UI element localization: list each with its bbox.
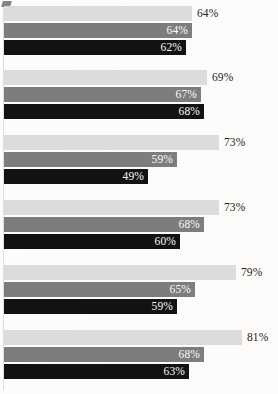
bar-value-label: 59% bbox=[143, 154, 173, 166]
bar-value-label: 59% bbox=[143, 301, 173, 313]
bar-row: 64% bbox=[4, 6, 274, 21]
bar-row: 59% bbox=[4, 299, 274, 314]
bar-row: 68% bbox=[4, 104, 274, 119]
bar-value-label: 79% bbox=[241, 267, 262, 279]
bar-value-label: 69% bbox=[212, 72, 233, 84]
bar-value-label: 60% bbox=[146, 236, 176, 248]
bar-value-label: 63% bbox=[155, 366, 185, 378]
bar-row: 81% bbox=[4, 330, 274, 345]
bar-value-label: 68% bbox=[170, 219, 200, 231]
bar-group: 73%59%49% bbox=[4, 135, 274, 184]
bar-value-label: 81% bbox=[247, 332, 268, 344]
bar-row: 49% bbox=[4, 169, 274, 184]
bar-value-label: 67% bbox=[167, 89, 197, 101]
bar-row: 68% bbox=[4, 217, 274, 232]
bar-group: 73%68%60% bbox=[4, 200, 274, 249]
bar-light[interactable] bbox=[4, 70, 207, 85]
bar-row: 67% bbox=[4, 87, 274, 102]
bar-row: 73% bbox=[4, 135, 274, 150]
bar-group: 64%64%62% bbox=[4, 6, 274, 55]
bar-row: 65% bbox=[4, 282, 274, 297]
bar-row: 59% bbox=[4, 152, 274, 167]
bar-value-label: 49% bbox=[114, 171, 144, 183]
bar-value-label: 62% bbox=[152, 42, 182, 54]
bar-light[interactable] bbox=[4, 200, 219, 215]
bar-light[interactable] bbox=[4, 135, 219, 150]
bar-row: 69% bbox=[4, 70, 274, 85]
bar-value-label: 68% bbox=[170, 106, 200, 118]
bar-value-label: 64% bbox=[197, 8, 218, 20]
bar-row: 79% bbox=[4, 265, 274, 280]
bar-group: 81%68%63% bbox=[4, 330, 274, 379]
bar-row: 62% bbox=[4, 40, 274, 55]
bar-light[interactable] bbox=[4, 6, 192, 21]
bar-value-label: 65% bbox=[161, 284, 191, 296]
bar-value-label: 73% bbox=[224, 137, 245, 149]
bar-row: 73% bbox=[4, 200, 274, 215]
bar-value-label: 68% bbox=[170, 349, 200, 361]
bar-light[interactable] bbox=[4, 330, 242, 345]
bar-chart: 64%64%62%69%67%68%73%59%49%73%68%60%79%6… bbox=[0, 0, 278, 394]
bar-group: 79%65%59% bbox=[4, 265, 274, 314]
bar-light[interactable] bbox=[4, 265, 236, 280]
bar-group: 69%67%68% bbox=[4, 70, 274, 119]
bar-value-label: 73% bbox=[224, 202, 245, 214]
bar-row: 64% bbox=[4, 23, 274, 38]
bar-row: 63% bbox=[4, 364, 274, 379]
bar-row: 60% bbox=[4, 234, 274, 249]
bar-value-label: 64% bbox=[158, 25, 188, 37]
bar-row: 68% bbox=[4, 347, 274, 362]
